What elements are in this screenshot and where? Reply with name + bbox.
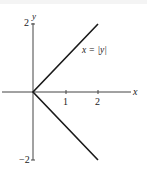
x-tick-label-2: 2 <box>95 96 100 107</box>
x-axis-label: x <box>132 86 138 97</box>
y-tick-label-2: 2 <box>24 17 29 28</box>
x-tick-label-1: 1 <box>63 96 68 107</box>
y-axis-label: y <box>31 11 36 21</box>
graph-figure: 2 y −2 1 2 x x = |y| <box>0 0 147 177</box>
curve-label: x = |y| <box>81 45 107 55</box>
y-tick-label-neg2: −2 <box>19 154 30 165</box>
